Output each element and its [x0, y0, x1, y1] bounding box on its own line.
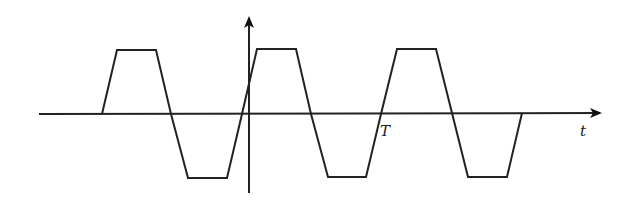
- waveform-diagram: T t: [0, 0, 629, 203]
- t-axis: [39, 113, 600, 114]
- period-label: T: [380, 122, 391, 140]
- t-axis-label: t: [580, 122, 587, 140]
